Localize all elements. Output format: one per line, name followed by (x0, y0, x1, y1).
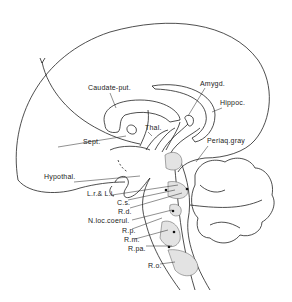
hippocampus (152, 85, 215, 142)
label-rp: R.p. (122, 227, 136, 235)
amygdala (185, 115, 194, 126)
label-periaq-gray: Periaq.gray (207, 137, 245, 145)
label-caudate-put: Caudate-put. (88, 84, 131, 92)
label-hippoc: Hippoc. (220, 99, 245, 107)
label-rd: R.d. (118, 208, 132, 216)
label-cs: C.s. (117, 199, 130, 207)
label-lr-li: L.r.& L.i. (87, 190, 115, 198)
cortical-projection (42, 62, 140, 144)
label-rm: R.m. (124, 236, 140, 244)
label-n-loc-coerul: N.loc.coerul. (88, 217, 130, 225)
label-hypothal: Hypothal. (44, 173, 75, 181)
hypothalamus (115, 176, 150, 197)
nucleus-raphe-obscurus (168, 250, 198, 276)
nucleus-upper (165, 152, 182, 170)
brain-diagram (0, 0, 292, 302)
label-rpa: R.pa. (128, 245, 146, 253)
label-amygd: Amygd. (200, 80, 225, 88)
septum (127, 125, 136, 134)
nucleus-raphe-pallidus (160, 221, 180, 246)
caudate-putamen (104, 100, 180, 133)
label-sept: Sept. (83, 138, 100, 146)
label-thal: Thal. (145, 124, 162, 132)
label-ro: R.o. (148, 262, 162, 270)
